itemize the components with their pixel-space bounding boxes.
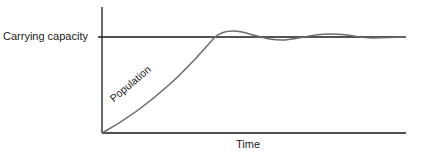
carrying-capacity-label: Carrying capacity — [3, 30, 88, 42]
x-axis-label: Time — [236, 138, 260, 150]
population-growth-diagram: Carrying capacity Population Time — [0, 0, 421, 154]
diagram-canvas — [0, 0, 421, 154]
population-curve — [102, 31, 406, 133]
